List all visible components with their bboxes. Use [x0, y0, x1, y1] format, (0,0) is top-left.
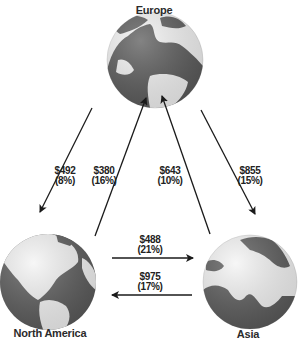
arrow-europe-to-asia [201, 110, 255, 214]
flow-share: (15%) [237, 176, 262, 186]
flow-share: (17%) [137, 282, 162, 292]
flow-share: (8%) [54, 176, 75, 186]
flow-label-asia-to-europe: $643 (10%) [157, 166, 182, 186]
north-america-globe-icon [0, 232, 96, 332]
region-label-europe: Europe [136, 4, 173, 16]
region-label-north-america: North America [14, 327, 87, 339]
flow-label-asia-to-north-america: $975 (17%) [137, 272, 162, 292]
flow-label-europe-to-asia: $855 (15%) [237, 166, 262, 186]
region-label-asia: Asia [237, 328, 259, 340]
asia-globe-icon [203, 235, 297, 332]
flow-label-north-america-to-europe: $380 (16%) [91, 166, 116, 186]
arrow-europe-to-north-america [40, 108, 92, 212]
flow-label-europe-to-north-america: $492 (8%) [54, 166, 75, 186]
flow-label-north-america-to-asia: $488 (21%) [137, 235, 162, 255]
flow-share: (10%) [157, 176, 182, 186]
flow-share: (16%) [91, 176, 116, 186]
europe-globe-icon [107, 12, 203, 110]
flow-share: (21%) [137, 245, 162, 255]
